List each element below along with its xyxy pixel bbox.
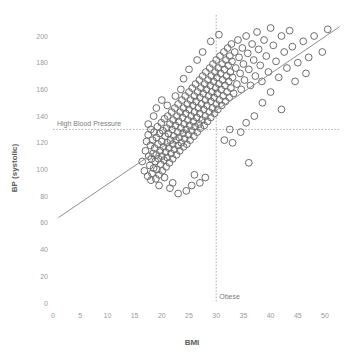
x-tick-label: 50: [321, 312, 329, 319]
y-tick-label: 40: [40, 246, 48, 253]
data-point: [303, 70, 310, 77]
y-tick-label: 160: [36, 86, 48, 93]
y-tick-label: 0: [44, 300, 48, 307]
data-point: [324, 26, 331, 33]
x-tick-label: 35: [240, 312, 248, 319]
data-point: [196, 179, 203, 186]
data-point: [245, 159, 252, 166]
x-tick-label: 30: [212, 312, 220, 319]
data-point: [150, 113, 157, 120]
data-point: [235, 37, 242, 44]
data-point: [230, 90, 237, 97]
data-point: [175, 190, 182, 197]
data-point: [199, 49, 206, 56]
x-tick-label: 40: [267, 312, 275, 319]
data-point: [164, 102, 171, 109]
data-point: [289, 43, 296, 50]
x-tick-label: 0: [51, 312, 55, 319]
data-point: [319, 49, 326, 56]
scatter-chart: 0510152025303540455002040608010012014016…: [0, 0, 357, 353]
y-tick-label: 120: [36, 139, 48, 146]
data-point: [261, 37, 268, 44]
y-tick-label: 20: [40, 273, 48, 280]
x-tick-label: 25: [185, 312, 193, 319]
data-point: [156, 182, 163, 189]
data-point: [180, 75, 187, 82]
data-point: [183, 187, 190, 194]
data-point: [265, 69, 272, 76]
data-point: [207, 38, 214, 45]
data-point: [300, 38, 307, 45]
data-point: [254, 29, 261, 36]
data-point: [186, 66, 193, 73]
data-point: [278, 106, 285, 113]
data-point: [273, 58, 280, 65]
data-point: [305, 54, 312, 61]
data-point: [252, 73, 259, 80]
data-point: [229, 139, 236, 146]
y-tick-label: 180: [36, 59, 48, 66]
x-axis-title: BMI: [185, 338, 200, 347]
data-point: [236, 54, 243, 61]
data-point: [311, 33, 318, 40]
data-point: [158, 97, 165, 104]
reference-lines: [53, 15, 340, 303]
data-point: [250, 57, 257, 64]
chart-svg: 0510152025303540455002040608010012014016…: [0, 0, 357, 353]
data-point: [244, 50, 251, 57]
data-point: [237, 129, 244, 136]
data-point: [217, 53, 224, 60]
data-point: [191, 171, 198, 178]
data-point: [292, 78, 299, 85]
x-tick-label: 5: [78, 312, 82, 319]
data-point: [284, 65, 291, 72]
data-point: [278, 33, 285, 40]
data-point: [286, 27, 293, 34]
data-point: [245, 66, 252, 73]
data-point: [249, 41, 256, 48]
data-point: [172, 93, 179, 100]
data-point: [228, 41, 235, 48]
data-point: [259, 99, 266, 106]
y-axis-title: BP (systolic): [10, 144, 19, 193]
data-point: [243, 33, 250, 40]
y-tick-label: 80: [40, 193, 48, 200]
y-tick-label: 60: [40, 219, 48, 226]
data-point: [257, 62, 264, 69]
data-point: [270, 42, 277, 49]
y-tick-label: 100: [36, 166, 48, 173]
data-point: [194, 57, 201, 64]
data-point: [240, 61, 247, 68]
data-point: [263, 53, 270, 60]
y-tick-label: 200: [36, 33, 48, 40]
data-point: [220, 49, 227, 56]
y-tick-label: 140: [36, 113, 48, 120]
data-point: [255, 46, 262, 53]
x-tick-label: 20: [158, 312, 166, 319]
data-point: [294, 59, 301, 66]
data-point: [267, 89, 274, 96]
data-point: [267, 25, 274, 32]
x-tick-label: 10: [104, 312, 112, 319]
data-point: [281, 49, 288, 56]
data-point: [221, 137, 228, 144]
annotation-label-obese: Obese: [219, 293, 240, 300]
data-point: [275, 74, 282, 81]
data-point: [145, 121, 152, 128]
data-point: [177, 86, 184, 93]
data-point: [243, 119, 250, 126]
data-point: [237, 70, 244, 77]
data-point: [241, 77, 248, 84]
data-point: [202, 174, 209, 181]
annotation-labels: High Blood PressureObese: [57, 120, 240, 300]
x-tick-label: 45: [294, 312, 302, 319]
annotation-label-high-blood-pressure: High Blood Pressure: [57, 120, 121, 128]
data-point: [153, 105, 160, 112]
data-point: [224, 45, 231, 52]
data-point: [169, 179, 176, 186]
data-point: [188, 182, 195, 189]
data-points: [139, 25, 331, 197]
data-point: [239, 45, 246, 52]
data-point: [161, 174, 168, 181]
x-tick-label: 15: [131, 312, 139, 319]
